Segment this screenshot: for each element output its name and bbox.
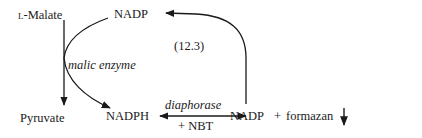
formazan-label: formazan (286, 110, 333, 123)
plus-sign: + (274, 110, 281, 123)
pyruvate-label: Pyruvate (20, 112, 64, 125)
recycle-arrow (166, 13, 246, 104)
diaphorase-label: diaphorase (165, 99, 221, 112)
equation-number: (12.3) (174, 40, 204, 53)
nbt-label: + NBT (178, 120, 213, 133)
l-malate-label: L-Malate (18, 9, 62, 22)
nadph-label: NADPH (106, 110, 149, 123)
malic-enzyme-label: malic enzyme (68, 59, 136, 72)
malate-text: -Malate (24, 8, 63, 22)
nadp-product-label: NADP (230, 110, 264, 123)
nadp-top-label: NADP (114, 8, 148, 21)
